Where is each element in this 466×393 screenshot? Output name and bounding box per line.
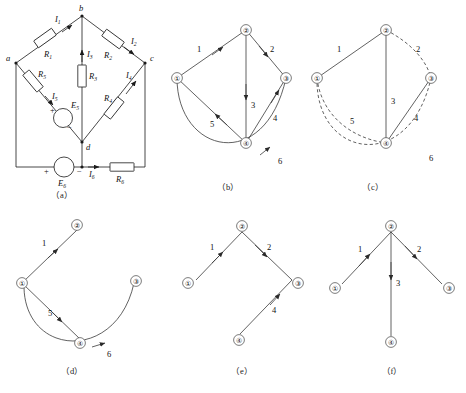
- panel-c-graph: 1 2 3 4 5 6 ① ② ③ ④ （c）: [295, 14, 455, 210]
- graph-d-label-6: 6: [107, 349, 111, 359]
- source-E5-minus: −: [67, 122, 72, 132]
- graph-b-node-3-label: ③: [283, 75, 289, 83]
- graph-f-node-2-label: ②: [388, 223, 394, 231]
- graph-b-node-1-label: ①: [174, 75, 180, 83]
- panel-f-graph: 1 2 3 ① ② ③ ④ （f）: [322, 212, 466, 387]
- graph-b-node-2-label: ②: [243, 27, 249, 35]
- graph-e-node-2-label: ②: [239, 223, 245, 231]
- current-arrow-I4: [126, 81, 136, 94]
- graph-e-edge-2: [242, 232, 292, 280]
- graph-d-edge-6: [24, 283, 134, 341]
- panel-d-graph: 1 5 6 ① ② ③ ④ （d）: [12, 212, 172, 387]
- graph-c-edge-1: [317, 30, 386, 78]
- graph-d-arrow-6: [92, 343, 105, 347]
- resistor-R6: [110, 163, 134, 171]
- figure-root: b a c d R1 I1 R2 I2 R3 I3: [0, 0, 466, 393]
- graph-e-node-3-label: ③: [295, 280, 301, 288]
- graph-b-label-5: 5: [210, 119, 214, 129]
- current-label-I6: I6: [88, 169, 95, 180]
- resistor-R6-label: R6: [115, 174, 124, 185]
- graph-e-node-4-label: ④: [236, 337, 242, 345]
- graph-d-arrow-1: [48, 249, 58, 258]
- graph-d-label-5: 5: [48, 308, 52, 318]
- current-label-I3: I3: [86, 49, 93, 60]
- resistor-R5-label: R5: [37, 69, 46, 80]
- graph-d-label-1: 1: [42, 238, 46, 248]
- source-E6: [54, 157, 74, 177]
- graph-f-arrow-1: [359, 254, 370, 266]
- source-E5-plus: +: [50, 105, 55, 115]
- graph-d-svg: 1 5 6 ① ② ③ ④: [12, 212, 172, 387]
- graph-f-label-2: 2: [417, 244, 421, 254]
- source-E6-plus: +: [44, 166, 49, 176]
- circuit-node-d-dot: [80, 140, 83, 143]
- graph-e-node-1-label: ①: [185, 280, 191, 288]
- panel-b-graph: 1 2 3 4 5 6 ① ② ③ ④ （b）: [155, 14, 295, 210]
- graph-e-label-4: 4: [272, 305, 277, 315]
- circuit-node-label-c: c: [150, 53, 154, 63]
- graph-d-node-3-label: ③: [133, 278, 139, 286]
- graph-f-arrow-2: [405, 246, 417, 259]
- graph-c-edge-5: [317, 78, 386, 143]
- graph-c-label-4: 4: [414, 113, 419, 123]
- graph-b-label-6: 6: [278, 156, 282, 166]
- resistor-R1-label: R1: [43, 49, 52, 60]
- graph-b-label-2: 2: [270, 44, 274, 54]
- panel-a-circuit: b a c d R1 I1 R2 I2 R3 I3: [0, 0, 160, 210]
- current-label-I2: I2: [130, 36, 137, 47]
- panel-e-graph: 1 2 4 ① ② ③ ④ （e）: [172, 212, 322, 387]
- graph-c-node-2-label: ②: [383, 27, 389, 35]
- current-label-I1: I1: [54, 14, 61, 25]
- circuit-node-b-dot: [80, 14, 83, 17]
- graph-e-arrow-1: [212, 252, 223, 263]
- resistor-R3: [78, 65, 86, 87]
- graph-e-arrow-2: [255, 245, 267, 257]
- graph-c-edge-2: [386, 30, 431, 78]
- panel-caption-e: （e）: [222, 364, 262, 376]
- panel-caption-a: （a）: [42, 188, 82, 200]
- panel-caption-f: （f）: [372, 364, 412, 376]
- graph-f-label-3: 3: [396, 278, 400, 288]
- graph-e-svg: 1 2 4 ① ② ③ ④: [172, 212, 322, 387]
- graph-b-edge-4: [246, 78, 286, 143]
- panel-caption-b: （b）: [208, 180, 248, 192]
- graph-b-label-1: 1: [197, 44, 201, 54]
- current-label-I5: I5: [51, 91, 58, 102]
- graph-b-arrow-2: [259, 46, 268, 57]
- resistor-R3-label: R3: [88, 71, 97, 82]
- graph-c-node-3-label: ③: [428, 75, 434, 83]
- source-E6-minus: −: [77, 166, 82, 176]
- source-E5-label: E5: [70, 100, 79, 111]
- graph-c-node-4-label: ④: [383, 140, 389, 148]
- circuit-svg: b a c d R1 I1 R2 I2 R3 I3: [0, 0, 160, 210]
- graph-b-edge-1: [177, 30, 246, 78]
- graph-f-node-1-label: ①: [332, 285, 338, 293]
- graph-d-node-4-label: ④: [77, 340, 83, 348]
- graph-c-label-6: 6: [429, 153, 433, 163]
- graph-c-label-3: 3: [391, 96, 395, 106]
- circuit-node-label-d: d: [86, 142, 91, 152]
- graph-c-label-2: 2: [416, 44, 420, 54]
- graph-b-arrow-1: [212, 47, 223, 55]
- graph-c-edge-4: [386, 78, 431, 143]
- graph-c-label-5: 5: [350, 116, 354, 126]
- resistor-R2: [102, 29, 125, 49]
- graph-b-label-3: 3: [251, 100, 255, 110]
- circuit-node-c-dot: [143, 61, 146, 64]
- graph-e-edge-4: [240, 280, 292, 334]
- graph-b-edge-6: [177, 78, 286, 143]
- current-arrow-I2: [124, 47, 134, 55]
- panel-caption-c: （c）: [353, 180, 393, 192]
- graph-e-arrow-4: [270, 294, 280, 305]
- graph-f-svg: 1 2 3 ① ② ③ ④: [322, 212, 466, 387]
- circuit-node-a-dot: [14, 61, 17, 64]
- circuit-node-label-a: a: [6, 53, 10, 63]
- graph-c-node-1-label: ①: [314, 75, 320, 83]
- current-label-I4: I4: [125, 70, 132, 81]
- graph-b-arrow-6: [260, 147, 270, 155]
- panel-caption-d: （d）: [52, 364, 92, 376]
- resistor-R4-label: R4: [103, 93, 112, 104]
- circuit-wires: [16, 16, 145, 167]
- graph-b-label-4: 4: [273, 113, 278, 123]
- graph-b-arrow-4: [271, 90, 279, 103]
